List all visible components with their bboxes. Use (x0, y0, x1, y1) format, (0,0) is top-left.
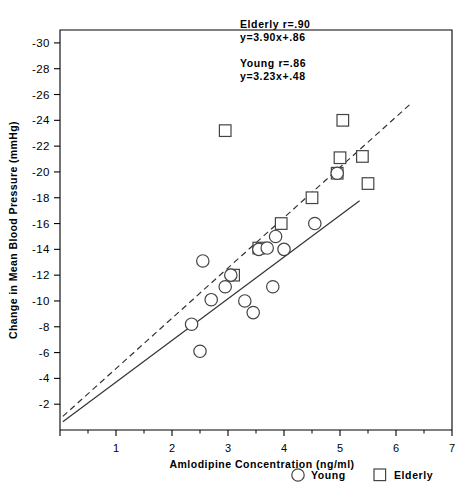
y-tick-label: -14 (32, 243, 50, 255)
elderly-data-points (219, 115, 373, 281)
y-tick-label: -24 (32, 114, 50, 126)
y-tick-label: -6 (39, 347, 50, 359)
young-stats-line: y=3.23x+.48 (240, 70, 306, 82)
y-tick-label: -28 (32, 63, 50, 75)
x-tick-label: 3 (225, 442, 231, 454)
legend-circle-icon (292, 469, 304, 481)
data-point-elderly (357, 151, 369, 163)
data-point-elderly (306, 192, 318, 204)
y-tick-label: -22 (32, 140, 50, 152)
young-data-points (185, 167, 343, 357)
data-point-elderly (362, 178, 374, 190)
y-tick-label: -10 (32, 295, 50, 307)
data-point-young (267, 281, 279, 293)
data-point-young (278, 243, 290, 255)
legend-label-young: Young (311, 469, 346, 481)
y-tick-label: -2 (39, 398, 50, 410)
data-point-young (269, 230, 281, 242)
data-point-young (197, 255, 209, 267)
data-point-young (185, 318, 197, 330)
data-point-young (194, 345, 206, 357)
x-tick-label: 5 (337, 442, 343, 454)
elderly-stats-line: y=3.90x+.86 (240, 31, 306, 43)
legend-square-icon (374, 469, 386, 481)
data-point-young (247, 306, 259, 318)
data-point-young (219, 281, 231, 293)
y-axis-ticks: -2-4-6-8-10-12-14-16-18-20-22-24-26-28-3… (32, 37, 60, 410)
x-tick-label: 1 (113, 442, 119, 454)
legend-label-elderly: Elderly (394, 469, 433, 481)
data-point-young (225, 269, 237, 281)
y-tick-label: -20 (32, 166, 50, 178)
y-tick-label: -16 (32, 218, 50, 230)
data-point-young (331, 167, 343, 179)
y-tick-label: -8 (39, 321, 50, 333)
y-tick-label: -18 (32, 192, 50, 204)
axis-labels: Amlodipine Concentration (ng/ml)Change i… (7, 121, 355, 470)
x-tick-label: 7 (449, 442, 455, 454)
x-tick-label: 4 (281, 442, 287, 454)
y-tick-label: -4 (39, 372, 50, 384)
data-point-elderly (275, 218, 287, 230)
y-tick-label: -26 (32, 89, 50, 101)
x-tick-label: 2 (169, 442, 175, 454)
elderly-stats-line: Elderly r=.90 (240, 18, 311, 30)
y-axis-title: Change in Mean Blood Pressure (mmHg) (7, 121, 19, 339)
x-tick-label: 6 (393, 442, 399, 454)
data-point-young (239, 295, 251, 307)
data-point-young (261, 242, 273, 254)
scatter-plot-figure: 1234567 -2-4-6-8-10-12-14-16-18-20-22-24… (0, 0, 469, 500)
young-stats-line: Young r=.86 (240, 57, 306, 69)
data-point-elderly (337, 115, 349, 127)
y-tick-label: -30 (32, 37, 50, 49)
plot-canvas: 1234567 -2-4-6-8-10-12-14-16-18-20-22-24… (0, 0, 469, 500)
data-point-young (309, 217, 321, 229)
y-tick-label: -12 (32, 269, 50, 281)
fit-line-young (63, 201, 360, 422)
stat-annotations: Elderly r=.90y=3.90x+.86Young r=.86y=3.2… (240, 18, 311, 82)
data-point-young (205, 293, 217, 305)
plot-frame (60, 30, 452, 430)
data-point-elderly (219, 125, 231, 137)
x-axis-ticks: 1234567 (60, 430, 455, 454)
data-point-elderly (334, 152, 346, 164)
legend: YoungElderly (292, 469, 433, 481)
